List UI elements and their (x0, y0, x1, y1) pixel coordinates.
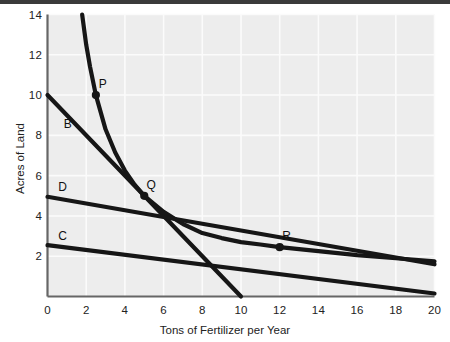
curve-label-c: C (58, 229, 67, 243)
point-marker-r (276, 243, 284, 251)
x-tick-label: 12 (273, 304, 286, 316)
x-tick-label: 20 (428, 304, 441, 316)
x-tick-label: 8 (199, 304, 206, 316)
x-tick-label: 0 (44, 304, 51, 316)
point-label-r: R (282, 229, 291, 243)
x-tick-label: 2 (83, 304, 90, 316)
chart-plot-area (0, 0, 450, 342)
y-tick-label: 12 (20, 49, 42, 61)
x-tick-label: 6 (160, 304, 167, 316)
y-tick-label: 4 (20, 210, 42, 222)
point-marker-q (140, 192, 148, 200)
y-axis-label: Acres of Land (14, 123, 26, 194)
y-tick-label: 14 (20, 9, 42, 21)
x-tick-label: 4 (122, 304, 129, 316)
x-tick-label: 10 (234, 304, 247, 316)
point-marker-p (92, 91, 100, 99)
point-label-p: P (99, 77, 107, 91)
curve-label-b: B (64, 117, 72, 131)
x-tick-label: 18 (389, 304, 402, 316)
y-tick-label: 10 (20, 89, 42, 101)
chart-figure: 024681012141618202468101214Tons of Ferti… (0, 0, 450, 342)
y-tick-label: 2 (20, 250, 42, 262)
x-axis-label: Tons of Fertilizer per Year (0, 324, 450, 336)
point-label-q: Q (147, 178, 156, 192)
curve-label-d: D (58, 180, 67, 194)
x-tick-label: 16 (350, 304, 363, 316)
x-tick-label: 14 (312, 304, 325, 316)
